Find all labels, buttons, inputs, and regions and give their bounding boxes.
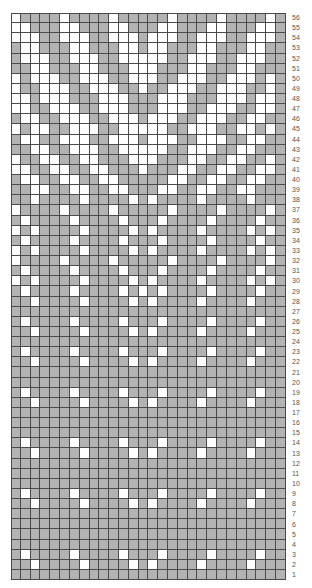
- main-color-stitch: [11, 94, 21, 104]
- contrast-color-stitch: [266, 418, 276, 428]
- contrast-color-stitch: [158, 64, 168, 74]
- contrast-color-stitch: [217, 540, 227, 550]
- row-number-label: 9: [292, 489, 312, 499]
- contrast-color-stitch: [50, 438, 60, 448]
- contrast-color-stitch: [247, 94, 257, 104]
- chart-row: [11, 216, 287, 226]
- contrast-color-stitch: [40, 448, 50, 458]
- main-color-stitch: [109, 94, 119, 104]
- contrast-color-stitch: [237, 317, 247, 327]
- contrast-color-stitch: [40, 135, 50, 145]
- contrast-color-stitch: [178, 23, 188, 33]
- contrast-color-stitch: [188, 570, 198, 580]
- contrast-color-stitch: [237, 337, 247, 347]
- contrast-color-stitch: [31, 418, 41, 428]
- main-color-stitch: [109, 23, 119, 33]
- contrast-color-stitch: [11, 135, 21, 145]
- contrast-color-stitch: [99, 114, 109, 124]
- contrast-color-stitch: [158, 519, 168, 529]
- contrast-color-stitch: [217, 266, 227, 276]
- main-color-stitch: [109, 205, 119, 215]
- contrast-color-stitch: [60, 246, 70, 256]
- contrast-color-stitch: [148, 540, 158, 550]
- contrast-color-stitch: [80, 337, 90, 347]
- contrast-color-stitch: [99, 509, 109, 519]
- contrast-color-stitch: [99, 570, 109, 580]
- contrast-color-stitch: [148, 367, 158, 377]
- contrast-color-stitch: [99, 13, 109, 23]
- contrast-color-stitch: [217, 74, 227, 84]
- main-color-stitch: [21, 135, 31, 145]
- contrast-color-stitch: [119, 560, 129, 570]
- contrast-color-stitch: [129, 367, 139, 377]
- contrast-color-stitch: [139, 428, 149, 438]
- contrast-color-stitch: [139, 388, 149, 398]
- contrast-color-stitch: [207, 74, 217, 84]
- contrast-color-stitch: [197, 469, 207, 479]
- contrast-color-stitch: [109, 155, 119, 165]
- contrast-color-stitch: [188, 104, 198, 114]
- contrast-color-stitch: [217, 246, 227, 256]
- row-number-label: 38: [292, 195, 312, 205]
- contrast-color-stitch: [60, 43, 70, 53]
- main-color-stitch: [256, 114, 266, 124]
- contrast-color-stitch: [188, 23, 198, 33]
- contrast-color-stitch: [90, 509, 100, 519]
- main-color-stitch: [109, 104, 119, 114]
- contrast-color-stitch: [50, 276, 60, 286]
- contrast-color-stitch: [178, 43, 188, 53]
- contrast-color-stitch: [188, 135, 198, 145]
- contrast-color-stitch: [139, 317, 149, 327]
- row-number-label: 6: [292, 520, 312, 530]
- contrast-color-stitch: [188, 519, 198, 529]
- contrast-color-stitch: [276, 13, 286, 23]
- contrast-color-stitch: [178, 185, 188, 195]
- row-number-label: 14: [292, 438, 312, 448]
- main-color-stitch: [207, 388, 217, 398]
- contrast-color-stitch: [197, 165, 207, 175]
- main-color-stitch: [21, 347, 31, 357]
- contrast-color-stitch: [148, 266, 158, 276]
- contrast-color-stitch: [11, 448, 21, 458]
- main-color-stitch: [70, 236, 80, 246]
- contrast-color-stitch: [237, 165, 247, 175]
- contrast-color-stitch: [158, 540, 168, 550]
- contrast-color-stitch: [60, 398, 70, 408]
- contrast-color-stitch: [129, 378, 139, 388]
- contrast-color-stitch: [129, 418, 139, 428]
- contrast-color-stitch: [80, 459, 90, 469]
- contrast-color-stitch: [139, 94, 149, 104]
- chart-row: [11, 43, 287, 53]
- contrast-color-stitch: [21, 357, 31, 367]
- main-color-stitch: [256, 23, 266, 33]
- main-color-stitch: [31, 195, 41, 205]
- contrast-color-stitch: [31, 459, 41, 469]
- main-color-stitch: [129, 43, 139, 53]
- contrast-color-stitch: [158, 13, 168, 23]
- contrast-color-stitch: [148, 428, 158, 438]
- contrast-color-stitch: [256, 479, 266, 489]
- main-color-stitch: [178, 94, 188, 104]
- contrast-color-stitch: [207, 448, 217, 458]
- contrast-color-stitch: [227, 428, 237, 438]
- main-color-stitch: [11, 124, 21, 134]
- contrast-color-stitch: [237, 459, 247, 469]
- contrast-color-stitch: [70, 64, 80, 74]
- row-number-label: 31: [292, 266, 312, 276]
- contrast-color-stitch: [139, 337, 149, 347]
- contrast-color-stitch: [139, 185, 149, 195]
- contrast-color-stitch: [178, 438, 188, 448]
- main-color-stitch: [31, 226, 41, 236]
- contrast-color-stitch: [158, 297, 168, 307]
- contrast-color-stitch: [148, 175, 158, 185]
- contrast-color-stitch: [90, 114, 100, 124]
- contrast-color-stitch: [168, 529, 178, 539]
- contrast-color-stitch: [31, 347, 41, 357]
- contrast-color-stitch: [50, 124, 60, 134]
- contrast-color-stitch: [109, 519, 119, 529]
- contrast-color-stitch: [119, 155, 129, 165]
- chart-row: [11, 357, 287, 367]
- main-color-stitch: [207, 23, 217, 33]
- main-color-stitch: [217, 135, 227, 145]
- main-color-stitch: [197, 155, 207, 165]
